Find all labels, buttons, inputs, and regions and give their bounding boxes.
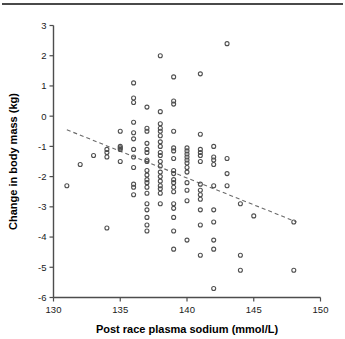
data-point bbox=[238, 202, 242, 206]
data-point bbox=[132, 101, 136, 105]
data-point bbox=[158, 160, 162, 164]
x-tick-label: 130 bbox=[46, 304, 62, 315]
data-point bbox=[198, 197, 202, 201]
data-point bbox=[225, 42, 229, 46]
data-point bbox=[145, 191, 149, 195]
data-point bbox=[172, 229, 176, 233]
data-point bbox=[292, 268, 296, 272]
x-tick-label: 150 bbox=[313, 304, 329, 315]
y-tick-label: 0 bbox=[41, 111, 46, 122]
y-tick-label: -5 bbox=[38, 262, 46, 273]
data-point bbox=[212, 144, 216, 148]
data-point bbox=[145, 173, 149, 177]
data-point bbox=[185, 170, 189, 174]
data-point bbox=[172, 156, 176, 160]
data-point bbox=[185, 181, 189, 185]
data-point bbox=[105, 226, 109, 230]
x-axis-title: Post race plasma sodium (mmol/L) bbox=[96, 323, 278, 335]
y-tick-label: -4 bbox=[38, 231, 46, 242]
data-point bbox=[132, 81, 136, 85]
data-point bbox=[118, 129, 122, 133]
data-point bbox=[198, 188, 202, 192]
data-point bbox=[158, 202, 162, 206]
y-tick-label: -6 bbox=[38, 292, 46, 303]
data-point bbox=[145, 229, 149, 233]
data-point bbox=[158, 140, 162, 144]
data-point bbox=[158, 54, 162, 58]
data-point bbox=[132, 193, 136, 197]
data-point bbox=[238, 268, 242, 272]
data-point bbox=[212, 184, 216, 188]
x-tick-label: 140 bbox=[179, 304, 195, 315]
data-point bbox=[198, 132, 202, 136]
data-point bbox=[212, 286, 216, 290]
y-tick-label: 2 bbox=[41, 50, 46, 61]
data-point bbox=[158, 134, 162, 138]
data-point bbox=[158, 175, 162, 179]
y-axis-title: Change in body mass (kg) bbox=[7, 93, 19, 230]
x-tick-label: 135 bbox=[112, 304, 128, 315]
data-point bbox=[158, 191, 162, 195]
data-point bbox=[158, 110, 162, 114]
data-point bbox=[185, 199, 189, 203]
data-point bbox=[65, 184, 69, 188]
data-point bbox=[145, 105, 149, 109]
data-point bbox=[158, 179, 162, 183]
data-point bbox=[78, 163, 82, 167]
data-point bbox=[145, 215, 149, 219]
data-point bbox=[145, 202, 149, 206]
y-tick-label: 1 bbox=[41, 80, 46, 91]
data-point bbox=[212, 238, 216, 242]
data-point bbox=[172, 206, 176, 210]
data-point bbox=[185, 166, 189, 170]
data-point bbox=[225, 172, 229, 176]
data-point bbox=[212, 208, 216, 212]
data-point bbox=[172, 190, 176, 194]
data-point bbox=[172, 202, 176, 206]
data-point bbox=[105, 155, 109, 159]
data-points-group bbox=[65, 42, 296, 291]
data-point bbox=[158, 122, 162, 126]
data-point bbox=[132, 120, 136, 124]
x-tick-label: 145 bbox=[246, 304, 262, 315]
data-point bbox=[145, 223, 149, 227]
data-point bbox=[92, 153, 96, 157]
data-point bbox=[198, 160, 202, 164]
data-point bbox=[158, 144, 162, 148]
data-point bbox=[198, 193, 202, 197]
data-point bbox=[225, 184, 229, 188]
data-point bbox=[172, 185, 176, 189]
data-point bbox=[198, 253, 202, 257]
data-point bbox=[132, 137, 136, 141]
data-point bbox=[252, 214, 256, 218]
data-point bbox=[185, 188, 189, 192]
data-point bbox=[198, 72, 202, 76]
data-point bbox=[118, 160, 122, 164]
data-point bbox=[198, 223, 202, 227]
data-point bbox=[158, 170, 162, 174]
data-point bbox=[212, 220, 216, 224]
figure-container: 3210-1-2-3-4-5-6130135140145150Post race… bbox=[0, 0, 345, 339]
data-point bbox=[172, 75, 176, 79]
data-point bbox=[145, 185, 149, 189]
y-tick-label: -2 bbox=[38, 171, 46, 182]
data-point bbox=[198, 208, 202, 212]
data-point bbox=[132, 147, 136, 151]
regression-trendline bbox=[67, 130, 297, 222]
data-point bbox=[212, 247, 216, 251]
data-point bbox=[145, 208, 149, 212]
data-point bbox=[132, 96, 136, 100]
data-point bbox=[212, 163, 216, 167]
data-point bbox=[172, 129, 176, 133]
data-point bbox=[185, 238, 189, 242]
scatter-plot: 3210-1-2-3-4-5-6130135140145150Post race… bbox=[0, 0, 345, 339]
y-tick-label: -1 bbox=[38, 141, 46, 152]
data-point bbox=[145, 141, 149, 145]
y-tick-label: -3 bbox=[38, 201, 46, 212]
data-point bbox=[145, 169, 149, 173]
data-point bbox=[238, 253, 242, 257]
data-point bbox=[132, 166, 136, 170]
data-point bbox=[172, 215, 176, 219]
data-point bbox=[172, 247, 176, 251]
data-point bbox=[225, 156, 229, 160]
